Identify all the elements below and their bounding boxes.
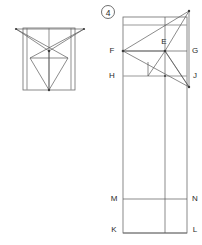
right-edge-f-lower xyxy=(123,51,189,87)
label-point-l: L xyxy=(193,225,198,234)
right-vertex-cross xyxy=(164,75,166,77)
left-edge-tr-center xyxy=(49,29,84,51)
label-point-h: H xyxy=(109,71,115,80)
right-net-diagram: F G H J E M N K L xyxy=(109,10,198,234)
left-edge-tl-center xyxy=(16,29,49,51)
left-vertex-apex xyxy=(48,89,50,91)
left-net-diagram xyxy=(15,28,85,91)
label-point-e: E xyxy=(161,37,166,46)
right-vertex-e xyxy=(164,50,167,53)
left-edge-bl-apex xyxy=(30,58,49,90)
figure-number-badge: 4 xyxy=(102,6,115,19)
label-point-m: M xyxy=(111,194,118,203)
label-point-g: G xyxy=(192,46,198,55)
label-point-j: J xyxy=(193,71,197,80)
figure-canvas: 4 xyxy=(0,0,202,245)
label-point-k: K xyxy=(111,225,117,234)
left-vertex-top-left xyxy=(15,28,17,30)
right-vertex-apex xyxy=(188,10,190,12)
right-frame-rect xyxy=(123,17,187,233)
right-vertex-lower xyxy=(188,86,190,88)
figure-sheet: 4 xyxy=(0,0,202,245)
label-point-f: F xyxy=(110,46,115,55)
left-edge-tl-br xyxy=(16,29,68,58)
right-vertex-f xyxy=(122,50,125,53)
left-vertex-top-right xyxy=(83,28,85,30)
left-vertex-center xyxy=(48,50,50,52)
left-edge-br-apex xyxy=(49,58,68,90)
figure-number-text: 4 xyxy=(106,8,111,18)
label-point-n: N xyxy=(192,194,198,203)
right-edge-e-to-bottom xyxy=(165,51,189,87)
